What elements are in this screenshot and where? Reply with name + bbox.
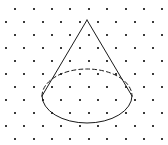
grid-dot <box>125 112 127 114</box>
grid-dot <box>69 60 71 62</box>
grid-dot <box>134 125 136 127</box>
grid-dot <box>97 99 99 101</box>
cone-diagram-canvas <box>0 0 168 145</box>
grid-dot <box>106 60 108 62</box>
grid-dot <box>106 34 108 36</box>
grid-dot <box>33 138 35 140</box>
grid-dot <box>161 86 163 88</box>
grid-dot <box>23 47 25 49</box>
grid-dot <box>161 138 163 140</box>
grid-dot <box>143 112 145 114</box>
grid-dot <box>161 60 163 62</box>
grid-dot <box>134 21 136 23</box>
grid-dot <box>106 138 108 140</box>
grid-dot <box>14 112 16 114</box>
grid-dot <box>152 21 154 23</box>
grid-dot <box>60 99 62 101</box>
grid-dot <box>14 60 16 62</box>
grid-dot <box>97 73 99 75</box>
grid-dot <box>42 125 44 127</box>
grid-dot <box>60 21 62 23</box>
grid-dot <box>79 125 81 127</box>
grid-dot <box>161 112 163 114</box>
grid-dot <box>33 86 35 88</box>
grid-dot <box>14 86 16 88</box>
grid-dot <box>42 73 44 75</box>
grid-dot <box>60 125 62 127</box>
grid-dot <box>51 34 53 36</box>
grid-dot <box>143 86 145 88</box>
grid-dot <box>88 112 90 114</box>
grid-dot <box>125 34 127 36</box>
grid-dot <box>5 99 7 101</box>
grid-dot <box>134 99 136 101</box>
grid-dot <box>42 21 44 23</box>
grid-dot <box>88 8 90 10</box>
grid-dot <box>69 8 71 10</box>
grid-dot <box>33 8 35 10</box>
grid-dot <box>51 86 53 88</box>
grid-dot <box>88 60 90 62</box>
grid-dot <box>23 125 25 127</box>
grid-dot <box>88 86 90 88</box>
grid-dot <box>5 21 7 23</box>
grid-dot <box>5 47 7 49</box>
grid-dot <box>115 47 117 49</box>
grid-dot <box>69 112 71 114</box>
grid-dot <box>115 125 117 127</box>
cone-diagram <box>0 0 168 145</box>
grid-dot <box>33 112 35 114</box>
grid-dot <box>69 34 71 36</box>
grid-dot <box>143 8 145 10</box>
grid-dot <box>106 112 108 114</box>
grid-dot <box>42 47 44 49</box>
grid-dot <box>79 99 81 101</box>
grid-dot <box>69 138 71 140</box>
grid-dot <box>14 34 16 36</box>
grid-dot <box>161 34 163 36</box>
grid-dot <box>88 34 90 36</box>
grid-dot <box>115 21 117 23</box>
grid-dot <box>97 21 99 23</box>
grid-dot <box>23 73 25 75</box>
grid-dot <box>152 73 154 75</box>
grid-dot <box>106 86 108 88</box>
grid-dot <box>88 138 90 140</box>
grid-dot <box>5 73 7 75</box>
grid-dot <box>143 138 145 140</box>
grid-dot <box>152 47 154 49</box>
grid-dot <box>14 8 16 10</box>
grid-dot <box>115 99 117 101</box>
grid-dot <box>125 8 127 10</box>
grid-dot <box>97 47 99 49</box>
grid-dot <box>33 60 35 62</box>
grid-dot <box>60 47 62 49</box>
grid-dot <box>51 60 53 62</box>
grid-dot <box>79 73 81 75</box>
grid-dot <box>134 73 136 75</box>
grid-dot <box>134 47 136 49</box>
grid-dot <box>161 8 163 10</box>
grid-dot <box>152 125 154 127</box>
grid-dot <box>125 60 127 62</box>
grid-dot <box>5 125 7 127</box>
grid-dot <box>152 99 154 101</box>
grid-dot <box>69 86 71 88</box>
grid-dot <box>125 138 127 140</box>
grid-dot <box>51 8 53 10</box>
grid-dot <box>79 21 81 23</box>
grid-dot <box>23 99 25 101</box>
grid-dot <box>79 47 81 49</box>
grid-dot <box>33 34 35 36</box>
grid-dot <box>97 125 99 127</box>
grid-dot <box>23 21 25 23</box>
grid-dot <box>143 34 145 36</box>
grid-dot <box>106 8 108 10</box>
grid-dot <box>14 138 16 140</box>
grid-dot <box>51 138 53 140</box>
grid-dot <box>143 60 145 62</box>
